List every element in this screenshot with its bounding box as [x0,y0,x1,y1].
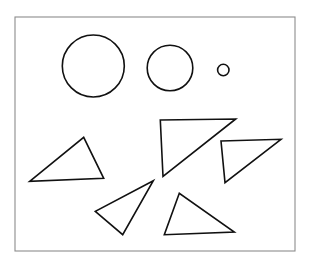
figure-border [15,17,295,251]
figure-root [0,0,311,265]
figure-canvas [0,0,311,265]
